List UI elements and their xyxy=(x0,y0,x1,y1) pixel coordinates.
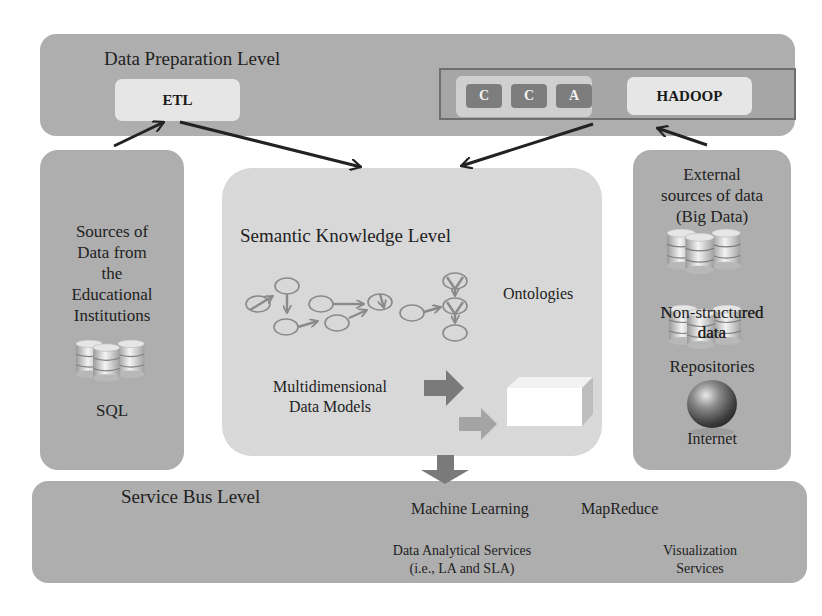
arrow-external-to-hadoop xyxy=(657,128,707,145)
non-structured-data-label-overlay: Non-structured data xyxy=(633,303,791,343)
block-arrow-models-to-cube xyxy=(424,370,464,406)
ontology-graph-icon xyxy=(246,273,467,341)
arrow-etl-to-semantic xyxy=(180,122,361,167)
data-cube-icon xyxy=(507,377,593,426)
block-arrow-semantic-to-service-bus xyxy=(421,455,469,484)
globe-icon xyxy=(687,380,737,436)
block-arrow-secondary xyxy=(459,408,497,440)
database-stack-icon-nonstructured xyxy=(667,229,740,274)
arrow-cca-to-semantic xyxy=(461,124,593,166)
arrow-sql-to-etl xyxy=(114,122,164,146)
database-stack-icon-sql xyxy=(76,340,144,382)
